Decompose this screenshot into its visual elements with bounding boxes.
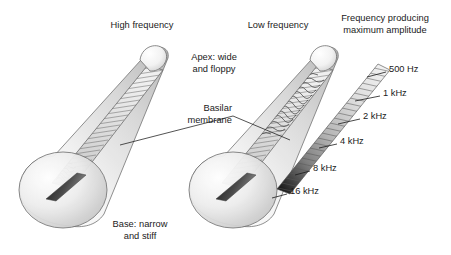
- heading-frequency-map: Frequency producing maximum amplitude: [325, 13, 445, 36]
- heading-frequency-map-line2: maximum amplitude: [325, 25, 445, 37]
- frequency-label-2-khz: 2 kHz: [363, 111, 387, 121]
- cochlea-high-frequency: [19, 46, 168, 228]
- frequency-label-8-khz: 8 kHz: [313, 163, 337, 173]
- frequency-label-1-khz: 1 kHz: [383, 88, 407, 98]
- label-apex-line2: and floppy: [172, 64, 256, 76]
- frequency-label-4-khz: 4 kHz: [340, 136, 364, 146]
- heading-high-frequency: High frequency: [89, 20, 195, 32]
- label-base-line1: Base: narrow: [86, 219, 194, 231]
- label-base-line2: and stiff: [86, 231, 194, 243]
- label-base: Base: narrow and stiff: [86, 219, 194, 242]
- figure-canvas: [0, 0, 451, 255]
- label-basilar-membrane: Basilar membrane: [152, 103, 232, 126]
- frequency-label-16-khz: 16 kHz: [290, 186, 319, 196]
- heading-low-frequency: Low frequency: [228, 20, 328, 32]
- label-apex: Apex: wide and floppy: [172, 52, 256, 75]
- frequency-label-500-hz: 500 Hz: [389, 64, 418, 74]
- cochlea-tonotopy-figure: High frequency Low frequency Frequency p…: [0, 0, 451, 255]
- label-apex-line1: Apex: wide: [172, 52, 256, 64]
- label-basilar-line1: Basilar: [152, 103, 232, 115]
- heading-frequency-map-line1: Frequency producing: [325, 13, 445, 25]
- label-basilar-line2: membrane: [152, 115, 232, 127]
